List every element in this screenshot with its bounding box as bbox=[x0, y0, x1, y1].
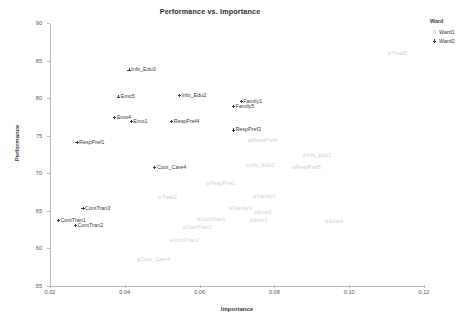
data-point-label: Coor_Care4 bbox=[157, 165, 186, 170]
tick-mark-icon bbox=[349, 285, 350, 288]
data-point-label: Family1 bbox=[257, 194, 276, 199]
data-point-label: Emo1 bbox=[133, 119, 147, 124]
x-tick-label: 0.06 bbox=[180, 289, 220, 295]
data-point-label: Emo5 bbox=[121, 94, 135, 99]
data-point-label: Treat3 bbox=[161, 195, 176, 200]
legend: Ward Ward1Ward2 bbox=[430, 18, 472, 46]
y-tick-label: 65 bbox=[16, 208, 42, 214]
circle-marker bbox=[248, 139, 251, 142]
plus-marker bbox=[178, 94, 181, 97]
data-point-label: Treat5 bbox=[392, 51, 407, 56]
x-tick-label: 0.02 bbox=[30, 289, 70, 295]
data-point-label: ContTran3 bbox=[186, 225, 211, 230]
data-point-label: Coor_Care4 bbox=[141, 257, 170, 262]
data-point-label: Emo4 bbox=[329, 219, 343, 224]
y-axis-label: Performance bbox=[14, 103, 20, 183]
data-point-label: Emo1 bbox=[253, 218, 267, 223]
circle-marker bbox=[303, 154, 306, 157]
circle-marker bbox=[246, 164, 249, 167]
scatter-plot-figure: Performance vs. Importance 0.020.040.060… bbox=[0, 0, 472, 329]
data-point-label: Info_Edu3 bbox=[307, 153, 332, 158]
circle-marker bbox=[197, 218, 200, 221]
circle-marker bbox=[388, 52, 391, 55]
legend-swatch bbox=[430, 28, 439, 36]
tick-mark-icon bbox=[47, 23, 50, 24]
data-point-label: ContTran3 bbox=[85, 206, 110, 211]
y-tick-label: 55 bbox=[16, 283, 42, 289]
y-tick-label: 90 bbox=[16, 20, 42, 26]
tick-mark-icon bbox=[274, 285, 275, 288]
plus-marker bbox=[57, 219, 60, 222]
tick-mark-icon bbox=[424, 285, 425, 288]
x-tick-label: 0.04 bbox=[105, 289, 145, 295]
data-point-label: Info_Edu3 bbox=[131, 67, 156, 72]
page-title: Performance vs. Importance bbox=[0, 7, 420, 16]
tick-mark-icon bbox=[47, 286, 50, 287]
legend-title: Ward bbox=[430, 18, 472, 24]
circle-marker bbox=[433, 30, 436, 33]
tick-mark-icon bbox=[125, 285, 126, 288]
data-point-label: RespPref3 bbox=[235, 127, 260, 132]
plus-marker bbox=[232, 105, 235, 108]
plus-marker bbox=[117, 95, 120, 98]
data-point-label: ContTran2 bbox=[174, 238, 199, 243]
data-point-label: Emo5 bbox=[258, 210, 272, 215]
data-point-label: RespPref1 bbox=[210, 181, 235, 186]
plus-marker bbox=[127, 68, 130, 71]
y-tick-label: 80 bbox=[16, 95, 42, 101]
data-point-label: RespPref5 bbox=[295, 165, 320, 170]
circle-marker bbox=[158, 196, 161, 199]
data-point-label: Info_Edu2 bbox=[182, 93, 207, 98]
data-point-label: Family3 bbox=[233, 206, 252, 211]
data-point-label: RespPref1 bbox=[79, 140, 104, 145]
data-point-label: ContTran2 bbox=[78, 223, 103, 228]
y-tick-label: 85 bbox=[16, 58, 42, 64]
plus-marker bbox=[113, 116, 116, 119]
data-point-label: RespPref4 bbox=[252, 138, 277, 143]
tick-mark-icon bbox=[50, 285, 51, 288]
plus-marker bbox=[75, 141, 78, 144]
plot-area bbox=[50, 24, 424, 287]
tick-mark-icon bbox=[47, 173, 50, 174]
y-tick-label: 60 bbox=[16, 245, 42, 251]
legend-entries: Ward1Ward2 bbox=[430, 28, 472, 45]
tick-mark-icon bbox=[47, 211, 50, 212]
x-tick-label: 0.12 bbox=[404, 289, 444, 295]
plus-marker bbox=[153, 166, 156, 169]
data-point-label: ContTran1 bbox=[200, 217, 225, 222]
legend-label: Ward2 bbox=[439, 38, 455, 44]
tick-mark-icon bbox=[47, 248, 50, 249]
x-axis-label: Importance bbox=[50, 306, 424, 312]
x-tick-label: 0.08 bbox=[254, 289, 294, 295]
legend-label: Ward1 bbox=[439, 29, 455, 35]
data-point-label: Info_Edu2 bbox=[250, 163, 275, 168]
data-point-label: Family5 bbox=[235, 104, 254, 109]
circle-marker bbox=[292, 166, 295, 169]
legend-item-ward1[interactable]: Ward1 bbox=[430, 28, 472, 36]
plus-marker bbox=[74, 224, 77, 227]
plus-marker bbox=[81, 207, 84, 210]
plus-marker bbox=[433, 39, 436, 42]
tick-mark-icon bbox=[47, 136, 50, 137]
legend-item-ward2[interactable]: Ward2 bbox=[430, 37, 472, 45]
tick-mark-icon bbox=[47, 98, 50, 99]
circle-marker bbox=[137, 258, 140, 261]
x-tick-label: 0.10 bbox=[329, 289, 369, 295]
plus-marker bbox=[232, 128, 235, 131]
plus-marker bbox=[130, 120, 133, 123]
tick-mark-icon bbox=[200, 285, 201, 288]
data-point-label: RespPref4 bbox=[174, 119, 199, 124]
plus-marker bbox=[170, 120, 173, 123]
legend-swatch bbox=[430, 37, 439, 45]
tick-mark-icon bbox=[47, 61, 50, 62]
